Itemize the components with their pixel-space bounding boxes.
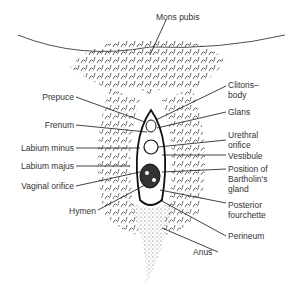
label-prepuce: Prepuce	[0, 92, 74, 102]
label-labium-majus: Labium majus	[0, 161, 74, 171]
label-anus: Anus	[193, 247, 212, 257]
perineum-shading	[128, 200, 175, 285]
pubic-hair	[70, 40, 225, 95]
label-clitoris-body: Clitoris– body	[228, 80, 259, 100]
label-vestibule: Vestibule	[228, 151, 263, 161]
label-posterior-fourchette: Posterior fourchette	[228, 200, 266, 220]
label-bartholins-gland: Position of Bartholin's gland	[228, 164, 268, 194]
label-vaginal-orifice: Vaginal orifice	[0, 181, 74, 191]
label-frenum: Frenum	[0, 120, 74, 130]
urethral-shape	[144, 140, 158, 154]
label-urethral-orifice: Urethral orifice	[228, 130, 258, 150]
glans-shape	[146, 120, 156, 132]
label-hymen: Hymen	[0, 206, 96, 216]
label-perineum: Perineum	[228, 231, 264, 241]
label-glans: Glans	[228, 107, 250, 117]
label-labium-minus: Labium minus	[0, 143, 74, 153]
label-mons-pubis: Mons pubis	[156, 12, 199, 22]
vaginal-orifice-shape	[140, 164, 160, 188]
